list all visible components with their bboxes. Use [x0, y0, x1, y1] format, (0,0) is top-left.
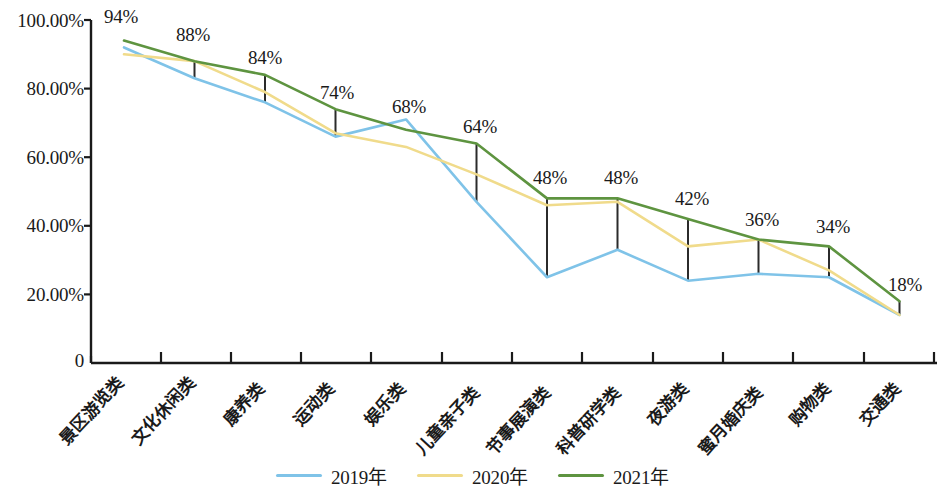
data-label: 68% [392, 96, 426, 118]
chart-container: 100.00% 80.00% 60.00% 40.00% 20.00% 0 [0, 0, 945, 492]
data-label: 18% [888, 274, 922, 296]
series-line-2019年 [124, 47, 900, 315]
legend-item-2020[interactable]: 2020年 [417, 462, 528, 489]
data-label: 42% [675, 188, 709, 210]
series-lines-group [124, 41, 900, 315]
data-label: 36% [745, 209, 779, 231]
data-label: 48% [604, 167, 638, 189]
data-label: 74% [320, 82, 354, 104]
x-axis-ticks [91, 352, 934, 363]
data-label: 34% [816, 216, 850, 238]
chart-legend: 2019年 2020年 2021年 [0, 462, 945, 489]
data-label: 64% [463, 116, 497, 138]
legend-swatch-icon [558, 474, 604, 477]
legend-label: 2019年 [331, 462, 387, 489]
legend-swatch-icon [276, 474, 322, 477]
axes-group [84, 20, 937, 363]
legend-swatch-icon [417, 474, 463, 477]
legend-item-2021[interactable]: 2021年 [558, 462, 669, 489]
series-line-2021年 [124, 41, 900, 302]
data-label: 84% [248, 47, 282, 69]
data-label: 94% [104, 6, 138, 28]
data-label: 48% [533, 167, 567, 189]
data-label: 88% [176, 24, 210, 46]
legend-label: 2020年 [472, 462, 528, 489]
legend-label: 2021年 [613, 462, 669, 489]
legend-item-2019[interactable]: 2019年 [276, 462, 387, 489]
